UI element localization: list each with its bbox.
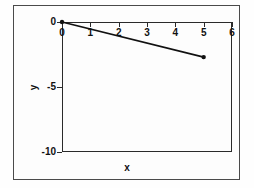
- x-tick-label-5: 5: [193, 27, 215, 39]
- plot-area: [62, 22, 232, 152]
- y-tick-0: [57, 22, 62, 23]
- chart-figure: 0 1 2 3 4 5 6 0 -5 -10 x y: [0, 0, 254, 188]
- y-axis-title: y: [28, 81, 39, 95]
- y-tick-label-minus10: -10: [22, 147, 56, 157]
- y-tick-minus5: [57, 87, 62, 88]
- y-tick-minus10: [57, 152, 62, 153]
- x-axis-title: x: [0, 162, 254, 173]
- x-tick-label-0: 0: [51, 27, 73, 39]
- x-tick-label-3: 3: [136, 27, 158, 39]
- x-tick-label-2: 2: [108, 27, 130, 39]
- x-tick-label-4: 4: [164, 27, 186, 39]
- x-tick-label-6: 6: [221, 27, 243, 39]
- y-tick-label-0: 0: [22, 17, 56, 27]
- x-tick-label-1: 1: [79, 27, 101, 39]
